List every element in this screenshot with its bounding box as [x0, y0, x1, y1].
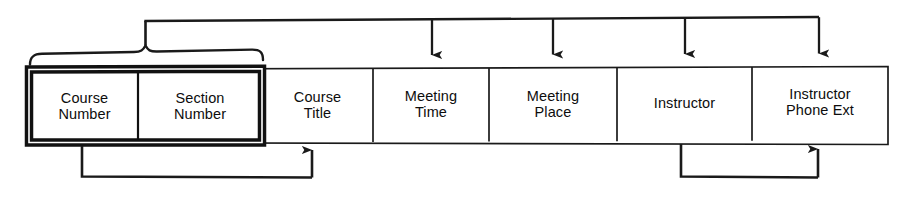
fd-instructor-to-instructor-phone-ext [681, 144, 818, 178]
composite-key-brace [30, 46, 263, 65]
fd-course-number-to-course-title [82, 146, 312, 178]
top-dependency-bus [144, 17, 819, 21]
relation-table-frame [29, 67, 888, 145]
cell-dividers [138, 67, 752, 143]
composite-key-outline [29, 69, 262, 143]
functional-dependency-diagram: Course Number Section Number Course Titl… [0, 0, 914, 206]
diagram-canvas [0, 0, 914, 206]
